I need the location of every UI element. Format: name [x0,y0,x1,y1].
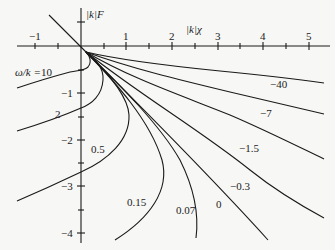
y-tick-label: −3 [61,181,73,192]
y-tick-label: −4 [61,228,73,239]
curve-label-0.07: 0.07 [176,205,195,216]
x-tick-label: −1 [29,31,41,42]
curve-label-2: 2 [55,109,61,120]
curve-label-minus-40: −40 [270,79,287,90]
curve-label-0: 0 [216,199,222,210]
x-tick-label: 1 [123,31,129,42]
curve-label-minus-7: −7 [260,108,272,119]
y-tick-label: −2 [61,135,73,146]
x-tick-label: 2 [169,31,175,42]
curve-label-0.5: 0.5 [91,144,105,155]
curve-label-minus-1.5: −1.5 [239,143,259,154]
x-tick-label: 3 [215,31,221,42]
x-axis-label: |k|χ [186,24,202,35]
curve-label-minus-0.3: −0.3 [230,181,250,192]
x-tick-label: 4 [260,31,266,42]
curve-omega-minus-0.3 [86,52,324,218]
y-tick-label: −1 [61,88,73,99]
y-axis-label: |k|F [86,9,104,20]
param-prefix: ω/k = [15,66,41,78]
curve-label-10: ω/k =10 [15,67,52,78]
chart-plot-area [0,0,335,250]
x-tick-label: 5 [306,31,312,42]
curve-label-0.15: 0.15 [127,197,146,208]
